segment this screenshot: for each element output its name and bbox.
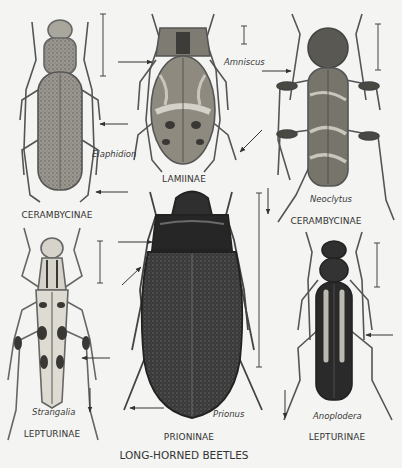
subfamily-label-elaphidion: CERAMBYCINAE bbox=[21, 210, 92, 220]
genus-label-elaphidion: Elaphidion bbox=[92, 149, 136, 159]
plate-title: LONG-HORNED BEETLES bbox=[120, 449, 249, 461]
beetle-illustrations bbox=[0, 0, 402, 468]
subfamily-label-amniscus: LAMIINAE bbox=[162, 174, 206, 184]
beetle-neoclytus bbox=[277, 14, 394, 222]
subfamily-label-neoclytus: CERAMBYCINAE bbox=[290, 216, 361, 226]
genus-label-prionus: Prionus bbox=[213, 409, 244, 419]
beetle-elaphidion bbox=[20, 20, 100, 202]
genus-label-strangalia: Strangalia bbox=[32, 407, 75, 417]
genus-label-anoplodera: Anoplodera bbox=[313, 411, 362, 421]
beetle-prionus bbox=[124, 192, 262, 419]
subfamily-label-anoplodera: LEPTURINAE bbox=[309, 432, 366, 442]
beetle-anoplodera bbox=[284, 232, 392, 420]
illustration-plate: Elaphidion CERAMBYCINAE Amniscus LAMIINA… bbox=[0, 0, 402, 468]
subfamily-label-strangalia: LEPTURINAE bbox=[24, 429, 81, 439]
subfamily-label-prionus: PRIONINAE bbox=[164, 432, 214, 442]
genus-label-neoclytus: Neoclytus bbox=[310, 194, 352, 204]
beetle-amniscus bbox=[134, 14, 236, 172]
genus-label-amniscus: Amniscus bbox=[224, 57, 265, 67]
